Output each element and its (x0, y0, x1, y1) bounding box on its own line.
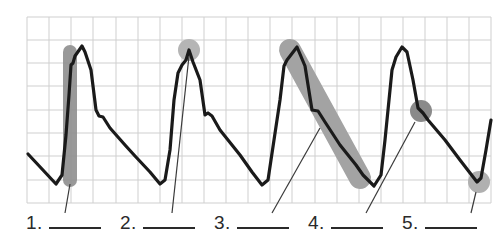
answer-3: 3. (214, 206, 289, 234)
answer-3-blank[interactable] (237, 226, 289, 229)
answer-5: 5. (402, 206, 477, 234)
answer-5-number: 5. (402, 212, 419, 234)
answer-5-blank[interactable] (425, 226, 477, 229)
answer-2-number: 2. (120, 212, 137, 234)
answer-2: 2. (120, 206, 195, 234)
answer-4: 4. (308, 206, 383, 234)
answer-4-number: 4. (308, 212, 325, 234)
answer-2-blank[interactable] (143, 226, 195, 229)
answer-3-number: 3. (214, 212, 231, 234)
answer-4-blank[interactable] (331, 226, 383, 229)
waveform-diagram (0, 0, 497, 236)
answer-1: 1. (26, 206, 101, 234)
answer-1-blank[interactable] (49, 226, 101, 229)
answer-labels: 1. 2. 3. 4. 5. (0, 206, 497, 236)
answer-1-number: 1. (26, 212, 43, 234)
